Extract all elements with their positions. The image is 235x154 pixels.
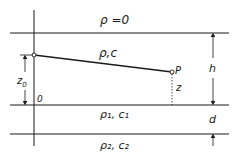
point-p-label: P [175,65,182,76]
d-label: d [209,113,217,126]
middle-layer-label: ρ,c [99,46,117,60]
lower-layer-label: ρ₁, c₁ [100,108,129,121]
bottom-layer-label: ρ₂, c₂ [100,139,129,152]
layered-medium-diagram: ρ =0 ρ,c ρ₁, c₁ ρ₂, c₂ 0 P z0 z h d [0,0,235,154]
receiver-point [170,70,174,74]
h-label: h [209,62,216,75]
origin-label: 0 [37,94,43,104]
z-label: z [175,82,182,93]
top-layer-label: ρ =0 [100,13,129,27]
z0-label: z0 [16,75,27,89]
